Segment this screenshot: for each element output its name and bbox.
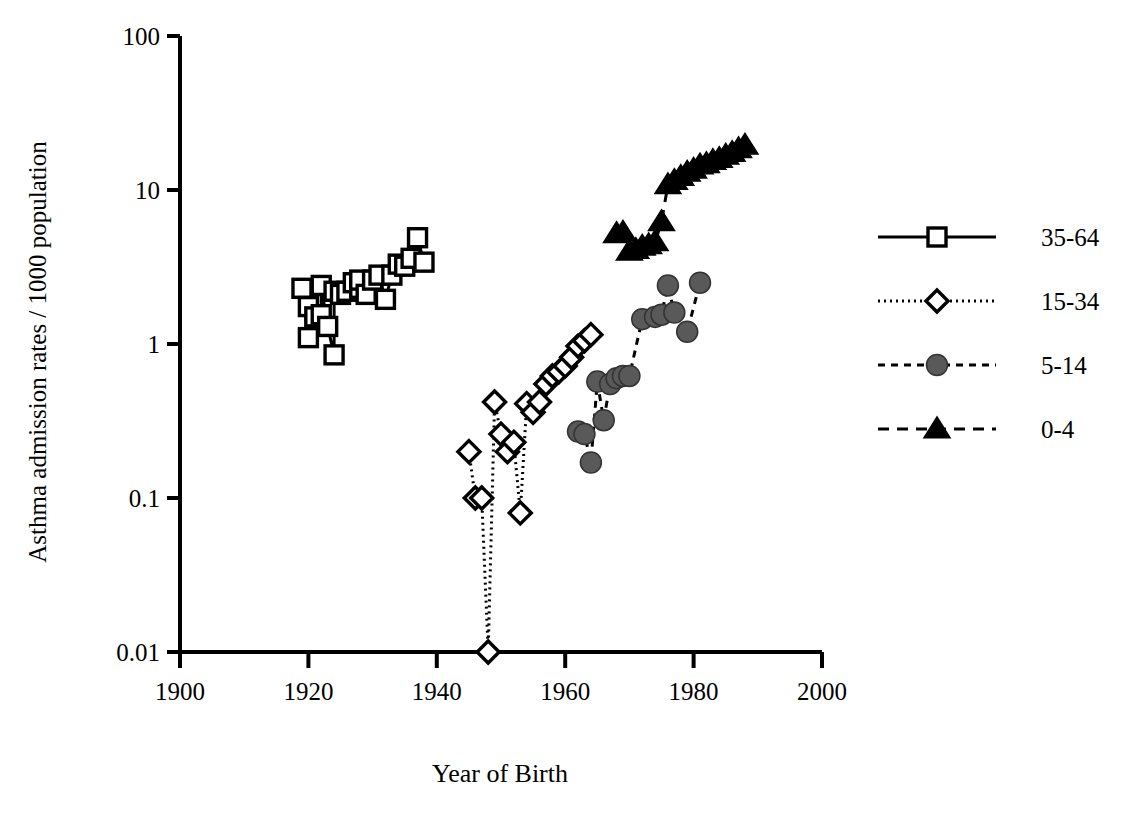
data-point-square [293,279,311,297]
y-tick-label: 0.1 [129,485,160,512]
y-tick-label: 1 [148,331,161,358]
data-point-square [415,253,433,271]
data-point-circle [690,272,711,293]
y-axis-title: Asthma admission rates / 1000 population [24,141,51,563]
data-point-square [319,317,337,335]
asthma-admission-rates-chart: 0.010.1110100 190019201940196019802000 3… [0,0,1136,823]
data-point-circle [593,410,614,431]
data-point-square [409,229,427,247]
y-tick-label: 0.01 [116,639,160,666]
data-point-circle [574,424,595,445]
data-point-circle [677,321,698,342]
x-tick-label: 1980 [669,678,719,705]
data-point-circle [619,365,640,386]
data-point-square [325,346,343,364]
legend-label: 15-34 [1041,288,1100,315]
legend-label: 35-64 [1041,224,1100,251]
data-point-square [376,290,394,308]
x-axis-title: Year of Birth [432,759,568,788]
x-tick-label: 1960 [540,678,590,705]
x-tick-label: 1900 [155,678,205,705]
legend-label: 0-4 [1041,416,1075,443]
data-point-square [928,228,946,246]
y-tick-label: 10 [135,177,160,204]
data-point-square [299,329,317,347]
data-point-circle [580,452,601,473]
x-tick-label: 1920 [283,678,333,705]
legend-label: 5-14 [1041,352,1087,379]
data-point-circle [664,302,685,323]
data-point-circle [657,275,678,296]
data-point-circle [927,355,948,376]
y-tick-label: 100 [123,23,161,50]
x-tick-label: 2000 [797,678,847,705]
x-tick-label: 1940 [412,678,462,705]
chart-canvas: 0.010.1110100 190019201940196019802000 3… [0,0,1136,823]
